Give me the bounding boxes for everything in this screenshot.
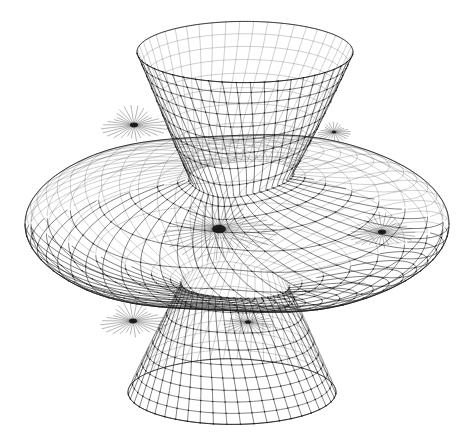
mesh-vertex <box>212 204 214 206</box>
mesh-vertex <box>316 309 318 311</box>
mesh-vertex <box>240 196 242 198</box>
mesh-vertex <box>294 291 296 293</box>
mesh-vertex <box>297 107 299 109</box>
mesh-vertex <box>392 269 394 271</box>
mesh-vertex <box>287 304 289 306</box>
mesh-vertex <box>149 399 151 401</box>
mesh-vertex <box>320 303 322 305</box>
mesh-vertex <box>158 78 160 80</box>
mesh-vertex <box>252 125 254 127</box>
mesh-vertex <box>277 90 279 92</box>
mesh-vertex <box>228 298 230 300</box>
mesh-vertex <box>301 283 303 285</box>
mesh-vertex <box>342 72 344 74</box>
mesh-vertex <box>370 275 372 277</box>
mesh-vertex <box>247 389 249 391</box>
mesh-vertex <box>232 184 234 186</box>
mesh-vertex <box>212 401 214 403</box>
mesh-vertex <box>166 289 168 291</box>
mesh-vertex <box>166 405 168 407</box>
mesh-vertex <box>264 112 266 114</box>
mesh-vertex <box>377 206 379 208</box>
mesh-vertex <box>58 272 60 274</box>
mesh-vertex <box>316 269 318 271</box>
mesh-vertex <box>52 236 54 238</box>
mesh-vertex <box>217 303 219 305</box>
mesh-vertex <box>99 206 101 208</box>
mesh-vertex <box>46 261 48 263</box>
mesh-vertex <box>201 100 203 102</box>
mesh-vertex <box>237 298 239 300</box>
mesh-vertex <box>270 298 272 300</box>
mesh-vertex <box>191 291 193 293</box>
mesh-vertex <box>179 266 181 268</box>
mesh-vertex <box>337 82 339 84</box>
mesh-vertex <box>175 323 177 325</box>
mesh-vertex <box>273 187 275 189</box>
mesh-vertex <box>325 378 327 380</box>
mesh-vertex <box>171 320 173 322</box>
mesh-vertex <box>253 138 255 140</box>
mesh-vertex <box>159 265 161 267</box>
mesh-vertex <box>193 299 195 301</box>
mesh-vertex <box>301 367 303 369</box>
mesh-vertex <box>228 114 230 116</box>
mesh-vertex <box>157 186 159 188</box>
mesh-vertex <box>291 168 293 170</box>
mesh-vertex <box>356 292 358 294</box>
mesh-vertex <box>274 310 276 312</box>
mesh-vertex <box>237 92 239 94</box>
mesh-vertex <box>276 100 278 102</box>
mesh-vertex <box>446 235 448 237</box>
mesh-vertex <box>381 244 383 246</box>
mesh-vertex <box>82 235 84 237</box>
mesh-vertex <box>71 217 73 219</box>
mesh-vertex <box>233 377 235 379</box>
mesh-vertex <box>336 264 338 266</box>
mesh-vertex <box>171 282 173 284</box>
mesh-vertex <box>283 345 285 347</box>
mesh-vertex <box>158 218 160 220</box>
mesh-vertex <box>190 183 192 185</box>
mesh-vertex <box>180 297 182 299</box>
mesh-vertex <box>285 372 287 374</box>
mesh-vertex <box>284 295 286 297</box>
mesh-vertex <box>381 286 383 288</box>
mesh-vertex <box>290 178 292 180</box>
mesh-vertex <box>318 92 320 94</box>
mesh-vertex <box>253 299 255 301</box>
mesh-vertex <box>324 185 326 187</box>
mesh-vertex <box>246 302 248 304</box>
mesh-vertex <box>213 183 215 185</box>
mesh-vertex <box>226 102 228 104</box>
mesh-vertex <box>307 105 309 107</box>
mesh-vertex <box>230 312 232 314</box>
mesh-vertex <box>259 388 261 390</box>
mesh-vertex <box>273 398 275 400</box>
mesh-vertex <box>146 239 148 241</box>
mesh-vertex <box>273 295 275 297</box>
mesh-vertex <box>183 76 185 78</box>
mesh-vertex <box>185 305 187 307</box>
mesh-vertex <box>304 137 306 139</box>
mesh-vertex <box>206 202 208 204</box>
mesh-vertex <box>168 295 170 297</box>
mesh-vertex <box>156 282 158 284</box>
mesh-vertex <box>295 118 297 120</box>
mesh-vertex <box>264 250 266 252</box>
mesh-vertex <box>427 260 429 262</box>
mesh-vertex <box>193 328 195 330</box>
mesh-vertex <box>294 298 296 300</box>
mesh-vertex <box>171 339 173 341</box>
mesh-vertex <box>402 273 404 275</box>
mesh-vertex <box>253 181 255 183</box>
mesh-vertex <box>214 167 216 169</box>
mesh-vertex <box>255 291 257 293</box>
mesh-vertex <box>245 203 247 205</box>
mesh-vertex <box>154 346 156 348</box>
mesh-vertex <box>264 91 266 93</box>
mesh-vertex <box>72 275 74 277</box>
mesh-vertex <box>330 79 332 81</box>
mesh-vertex <box>301 127 303 129</box>
mesh-vertex <box>176 303 178 305</box>
